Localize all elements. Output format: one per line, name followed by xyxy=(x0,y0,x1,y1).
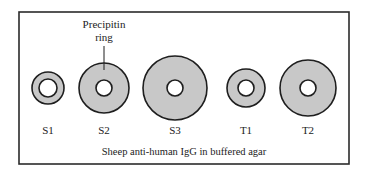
wells-group xyxy=(32,56,336,120)
well-t1 xyxy=(227,69,265,107)
well-label-t2: T2 xyxy=(302,124,314,136)
well-s2 xyxy=(79,63,129,113)
well-label-s3: S3 xyxy=(169,124,181,136)
immunodiffusion-diagram: Precipitin ring S1S2S3T1T2 Sheep anti-hu… xyxy=(0,0,365,177)
well-labels-group: S1S2S3T1T2 xyxy=(42,124,314,136)
annotation-precipitin-label: Precipitin xyxy=(83,18,126,30)
well-s3 xyxy=(143,56,207,120)
sample-well xyxy=(300,80,316,96)
annotation-ring-label: ring xyxy=(95,31,113,43)
plate-caption: Sheep anti-human IgG in buffered agar xyxy=(102,146,267,157)
well-label-s2: S2 xyxy=(98,124,110,136)
well-label-t1: T1 xyxy=(240,124,252,136)
well-label-s1: S1 xyxy=(42,124,54,136)
well-s1 xyxy=(32,72,64,104)
sample-well xyxy=(96,80,112,96)
sample-well xyxy=(39,79,57,97)
sample-well xyxy=(238,80,254,96)
well-t2 xyxy=(280,60,336,116)
sample-well xyxy=(167,80,183,96)
